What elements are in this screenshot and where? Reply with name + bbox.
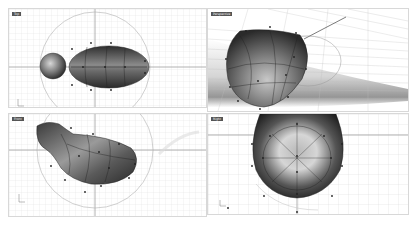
top-view-canvas: [9, 9, 206, 107]
viewport-top[interactable]: Top: [8, 8, 207, 108]
viewport-label-top[interactable]: Top: [12, 12, 21, 16]
viewport-label-perspective[interactable]: Perspective: [211, 12, 232, 16]
perspective-view-canvas: [208, 9, 408, 111]
viewport-label-right[interactable]: Right: [211, 117, 223, 121]
front-view-canvas: [9, 114, 206, 216]
viewport-perspective[interactable]: Perspective: [207, 8, 409, 112]
right-view-canvas: [208, 114, 408, 214]
viewport-front[interactable]: Front: [8, 113, 207, 217]
viewport-right[interactable]: Right: [207, 113, 409, 215]
viewport-label-front[interactable]: Front: [12, 117, 24, 121]
